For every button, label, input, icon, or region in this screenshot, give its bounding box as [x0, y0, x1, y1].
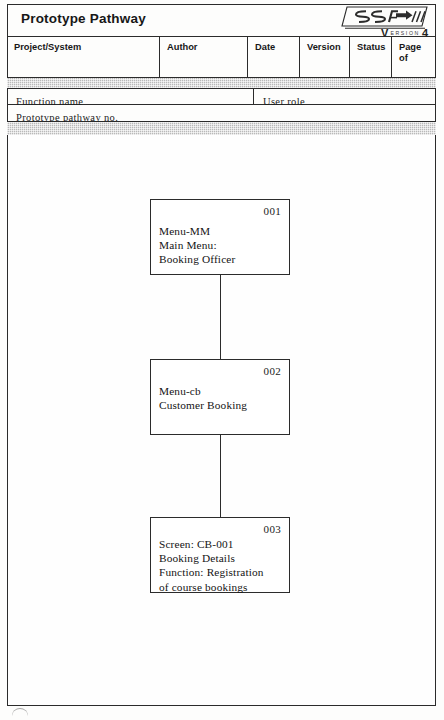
column-label: Author [167, 42, 197, 52]
column-header-date[interactable]: Date [248, 37, 300, 77]
column-label: Page of [399, 42, 421, 63]
column-label: Version [307, 42, 341, 52]
column-header-status[interactable]: Status [350, 37, 392, 77]
halftone-band-lower [7, 122, 436, 135]
node-id-003: 003 [264, 523, 281, 535]
function-name-field[interactable]: Function name [7, 89, 254, 105]
diagram-node-002[interactable]: 002 Menu-cb Customer Booking [150, 359, 290, 435]
column-header-page-of[interactable]: Page of [392, 37, 436, 77]
document-page: Prototype Pathway [0, 0, 444, 720]
user-role-field[interactable]: User role [254, 89, 436, 105]
diagram-connector-001-002 [220, 275, 221, 359]
scan-artifact-mark [12, 708, 28, 716]
diagram-connector-002-003 [220, 435, 221, 517]
title-band: Prototype Pathway [7, 4, 436, 37]
column-header-project-system[interactable]: Project/System [7, 37, 160, 77]
diagram-canvas: 001 Menu-MM Main Menu: Booking Officer 0… [8, 135, 435, 705]
column-label: Date [255, 42, 275, 52]
page-title: Prototype Pathway [21, 11, 146, 26]
node-id-001: 001 [264, 205, 281, 217]
node-text-003: Screen: CB-001 Booking Details Function:… [159, 537, 283, 594]
diagram-node-003[interactable]: 003 Screen: CB-001 Booking Details Funct… [150, 517, 290, 593]
logo-version-word: ersion [389, 30, 421, 37]
node-text-001: Menu-MM Main Menu: Booking Officer [159, 224, 283, 267]
column-header-author[interactable]: Author [160, 37, 248, 77]
diagram-node-001[interactable]: 001 Menu-MM Main Menu: Booking Officer [150, 199, 290, 275]
column-label: Status [357, 42, 385, 52]
node-id-002: 002 [264, 365, 281, 377]
column-label: Project/System [14, 42, 81, 52]
halftone-band-upper [7, 78, 436, 88]
function-role-row: Function name User role [7, 88, 436, 106]
prototype-pathway-no-field[interactable]: Prototype pathway no. [7, 105, 436, 122]
header-table-row: Project/System Author Date Version Statu… [7, 37, 436, 78]
node-text-002: Menu-cb Customer Booking [159, 384, 283, 412]
column-header-version[interactable]: Version [300, 37, 350, 77]
